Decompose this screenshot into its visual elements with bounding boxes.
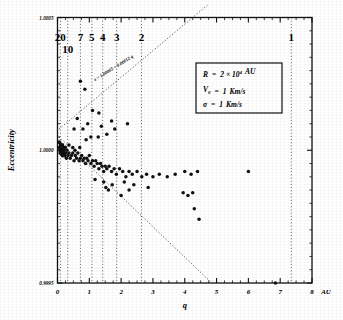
period-label-3: 3 bbox=[114, 31, 120, 43]
data-point bbox=[146, 186, 150, 190]
data-point bbox=[86, 159, 90, 163]
data-point bbox=[113, 127, 117, 131]
x-tick-label-0: 0 bbox=[56, 288, 60, 296]
period-label-5: 5 bbox=[89, 31, 95, 43]
x-tick-label-4: 4 bbox=[182, 288, 187, 296]
data-point bbox=[84, 162, 88, 166]
data-point bbox=[196, 170, 200, 174]
data-point bbox=[91, 159, 95, 163]
y-tick-label-1.0005: 1.0005 bbox=[39, 15, 54, 21]
data-point bbox=[119, 194, 123, 198]
data-point bbox=[151, 175, 155, 179]
x-axis-title: q bbox=[183, 300, 188, 310]
upper-envelope bbox=[59, 4, 209, 129]
data-point bbox=[110, 119, 114, 123]
data-point bbox=[181, 191, 185, 195]
data-point bbox=[104, 186, 108, 190]
data-point bbox=[89, 135, 93, 139]
axes-frame bbox=[58, 18, 313, 284]
data-point bbox=[81, 127, 85, 131]
data-point bbox=[83, 87, 87, 91]
x-tick-label-6: 6 bbox=[247, 288, 251, 296]
data-point bbox=[97, 167, 101, 171]
data-point bbox=[96, 162, 100, 166]
y-tick-label-1.0000: 1.0000 bbox=[39, 147, 54, 153]
data-point bbox=[92, 164, 96, 168]
data-point bbox=[145, 172, 149, 176]
data-point bbox=[121, 170, 125, 174]
data-point bbox=[67, 151, 71, 155]
data-point bbox=[110, 170, 114, 174]
x-tick-label-5: 5 bbox=[215, 288, 219, 296]
data-point bbox=[102, 170, 106, 174]
data-point bbox=[84, 138, 88, 142]
data-point bbox=[102, 180, 106, 184]
data-point bbox=[67, 143, 71, 147]
figure-canvas: 2010754321012345678AUq0.99951.00001.0005… bbox=[0, 0, 343, 320]
data-point bbox=[72, 159, 76, 163]
x-tick-label-8: 8 bbox=[310, 288, 314, 296]
data-point bbox=[80, 154, 84, 158]
data-point bbox=[73, 149, 77, 153]
data-point bbox=[123, 180, 127, 184]
period-label-20: 20 bbox=[55, 31, 67, 43]
data-point bbox=[127, 188, 131, 192]
data-point bbox=[76, 151, 80, 155]
data-point bbox=[79, 79, 83, 83]
data-point bbox=[173, 172, 177, 176]
data-point bbox=[126, 122, 130, 126]
x-axis-unit: AU bbox=[320, 288, 332, 296]
data-point bbox=[183, 170, 187, 174]
data-point bbox=[191, 191, 195, 195]
data-point bbox=[118, 167, 122, 171]
data-point bbox=[186, 194, 190, 198]
scatter-plot-svg: 2010754321012345678AUq0.99951.00001.0005… bbox=[0, 0, 343, 320]
x-tick-label-2: 2 bbox=[118, 288, 123, 296]
fit-line-equation: e = 1.00005 + 0.00012 q bbox=[93, 54, 135, 83]
data-point bbox=[132, 183, 136, 187]
period-label-2: 2 bbox=[139, 31, 145, 43]
period-label-4: 4 bbox=[100, 31, 106, 43]
data-point bbox=[107, 188, 111, 192]
period-label-10: 10 bbox=[62, 43, 74, 55]
data-point bbox=[140, 175, 144, 179]
period-label-7: 7 bbox=[78, 31, 84, 43]
x-tick-label-1: 1 bbox=[88, 288, 92, 296]
data-point bbox=[105, 133, 109, 137]
data-point bbox=[112, 167, 116, 171]
data-point bbox=[127, 170, 131, 174]
data-point bbox=[91, 109, 95, 113]
data-point bbox=[75, 117, 79, 121]
data-point bbox=[166, 175, 170, 179]
data-point bbox=[72, 127, 76, 131]
data-point bbox=[124, 175, 128, 179]
data-point bbox=[247, 170, 251, 174]
data-point bbox=[193, 207, 197, 211]
data-point bbox=[158, 172, 162, 176]
data-point bbox=[100, 125, 104, 129]
x-tick-label-7: 7 bbox=[278, 288, 282, 296]
y-axis-title: Eccentricity bbox=[6, 129, 16, 172]
data-point bbox=[107, 164, 111, 168]
data-point bbox=[96, 135, 100, 139]
data-point bbox=[93, 178, 97, 182]
data-point bbox=[75, 156, 79, 160]
period-label-1: 1 bbox=[289, 31, 295, 43]
x-tick-label-3: 3 bbox=[150, 288, 155, 296]
data-point bbox=[97, 111, 101, 115]
data-point bbox=[131, 172, 135, 176]
data-point bbox=[100, 164, 104, 168]
data-point bbox=[78, 146, 82, 150]
data-point bbox=[135, 170, 139, 174]
data-point bbox=[115, 172, 119, 176]
data-point bbox=[189, 172, 193, 176]
data-point bbox=[110, 183, 114, 187]
data-point bbox=[86, 122, 90, 126]
y-tick-label-0.9995: 0.9995 bbox=[39, 280, 54, 286]
data-point bbox=[88, 154, 92, 158]
data-point bbox=[197, 218, 201, 222]
